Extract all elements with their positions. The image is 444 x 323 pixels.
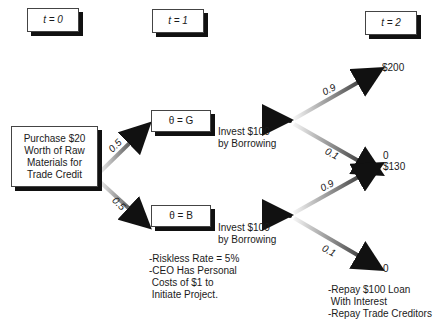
edge-bad-success: [294, 166, 378, 213]
chance-node-good: [288, 119, 292, 123]
chance-node-bad: [288, 214, 292, 218]
action-good-label: Invest $100 by Borrowing: [218, 126, 276, 150]
payoff-bad-fail: 0: [383, 263, 389, 275]
edge-good-success: [294, 71, 378, 119]
edge-root-good: [98, 127, 146, 174]
time-header-t1: t = 1: [152, 9, 204, 33]
edge-bad-fail: [294, 218, 378, 267]
action-bad-label: Invest $100 by Borrowing: [218, 222, 276, 246]
state-bad-box: θ = B: [151, 205, 211, 227]
state-good-box: θ = G: [151, 110, 211, 132]
time-header-t0: t = 0: [27, 8, 79, 32]
edge-good-fail: [294, 124, 378, 172]
assumptions-note: -Riskless Rate = 5% -CEO Has Personal Co…: [149, 253, 239, 301]
payoff-bad-success: $130: [383, 161, 405, 173]
time-header-t2: t = 2: [365, 11, 417, 35]
payoff-good-success: $200: [382, 62, 404, 74]
repayment-note: -Repay $100 Loan With Interest -Repay Tr…: [328, 284, 432, 320]
root-decision-box: Purchase $20 Worth of Raw Materials for …: [11, 126, 98, 187]
